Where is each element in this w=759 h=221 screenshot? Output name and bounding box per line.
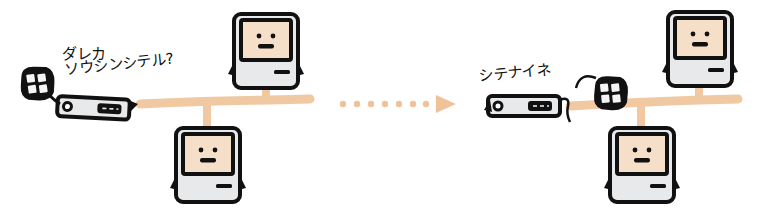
computer-top-icon (662, 12, 738, 86)
cable-backbone (140, 99, 310, 104)
cable-ball-icon (592, 74, 630, 112)
computer-bottom-icon (170, 128, 246, 202)
router-icon (488, 96, 560, 116)
network-diagram: ダレカ ソウシンシテル? シテナイネ (0, 0, 759, 221)
computer-top-icon (228, 14, 304, 88)
computer-bottom-icon (604, 128, 680, 202)
after-network (484, 12, 738, 202)
diagram-canvas (0, 0, 759, 221)
dotted-arrow-icon (340, 95, 456, 113)
router-icon (57, 96, 130, 120)
before-network (18, 14, 310, 202)
